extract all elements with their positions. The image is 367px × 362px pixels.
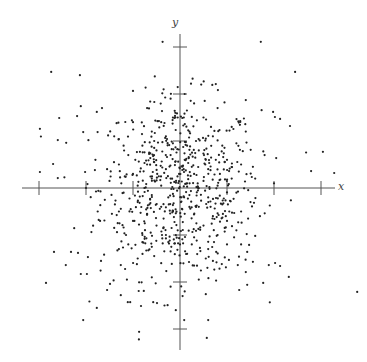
data-point (202, 225, 204, 227)
data-point (155, 164, 157, 166)
data-point (230, 200, 232, 202)
data-point (144, 236, 146, 238)
data-point (210, 126, 212, 128)
data-point (197, 182, 199, 184)
data-point (132, 262, 134, 264)
data-point (182, 229, 184, 231)
data-point (153, 101, 155, 103)
data-point (204, 140, 206, 142)
data-point (118, 210, 120, 212)
data-point (175, 182, 177, 184)
x-axis-label: x (338, 180, 344, 193)
data-point (198, 206, 200, 208)
data-point (224, 161, 226, 163)
data-point (135, 206, 137, 208)
data-point (144, 229, 146, 231)
data-point (58, 117, 60, 119)
data-point (322, 151, 324, 153)
data-point (179, 132, 181, 134)
data-point (96, 111, 98, 113)
data-point (219, 173, 221, 175)
data-point (138, 161, 140, 163)
data-point (161, 166, 163, 168)
data-point (119, 170, 121, 172)
data-point (145, 183, 147, 185)
data-point (39, 171, 41, 173)
data-point (145, 160, 147, 162)
data-point (187, 174, 189, 176)
data-point (184, 93, 186, 95)
data-point (231, 178, 233, 180)
data-point (151, 194, 153, 196)
data-point (175, 208, 177, 210)
data-point (202, 137, 204, 139)
data-point (92, 225, 94, 227)
data-point (154, 132, 156, 134)
data-point (183, 185, 185, 187)
data-point (155, 217, 157, 219)
data-point (177, 86, 179, 88)
data-point (173, 202, 175, 204)
data-point (131, 211, 133, 213)
data-point (97, 190, 99, 192)
data-point (124, 121, 126, 123)
data-point (289, 125, 291, 127)
data-point (134, 195, 136, 197)
data-point (210, 145, 212, 147)
data-point (236, 161, 238, 163)
data-point (121, 224, 123, 226)
data-point (80, 105, 82, 107)
data-point (133, 220, 135, 222)
data-point (200, 194, 202, 196)
data-point (116, 122, 118, 124)
data-point (156, 177, 158, 179)
data-point (212, 135, 214, 137)
data-point (77, 252, 79, 254)
data-point (205, 203, 207, 205)
data-point (171, 148, 173, 150)
data-point (163, 218, 165, 220)
data-point (125, 176, 127, 178)
data-point (226, 180, 228, 182)
data-point (205, 138, 207, 140)
data-point (191, 231, 193, 233)
data-point (98, 219, 100, 221)
data-point (155, 282, 157, 284)
data-point (233, 198, 235, 200)
data-point (217, 185, 219, 187)
data-point (169, 240, 171, 242)
data-point (114, 200, 116, 202)
data-point (188, 149, 190, 151)
data-point (149, 164, 151, 166)
data-point (166, 138, 168, 140)
data-point (220, 203, 222, 205)
data-point (113, 227, 115, 229)
data-point (158, 126, 160, 128)
data-point (203, 163, 205, 165)
data-point (139, 171, 141, 173)
data-point (226, 243, 228, 245)
data-point (273, 182, 275, 184)
data-point (158, 175, 160, 177)
data-point (207, 201, 209, 203)
data-point (53, 251, 55, 253)
data-point (138, 331, 140, 333)
data-point (269, 204, 271, 206)
data-point (142, 180, 144, 182)
data-point (175, 224, 177, 226)
data-point (204, 100, 206, 102)
data-point (175, 234, 177, 236)
data-point (214, 203, 216, 205)
data-point (160, 206, 162, 208)
data-point (151, 235, 153, 237)
data-point (175, 211, 177, 213)
data-point (110, 170, 112, 172)
data-point (192, 156, 194, 158)
data-point (100, 260, 102, 262)
data-point (183, 113, 185, 115)
data-point (226, 220, 228, 222)
data-point (294, 71, 296, 73)
data-point (221, 263, 223, 265)
data-point (116, 214, 118, 216)
data-point (95, 190, 97, 192)
